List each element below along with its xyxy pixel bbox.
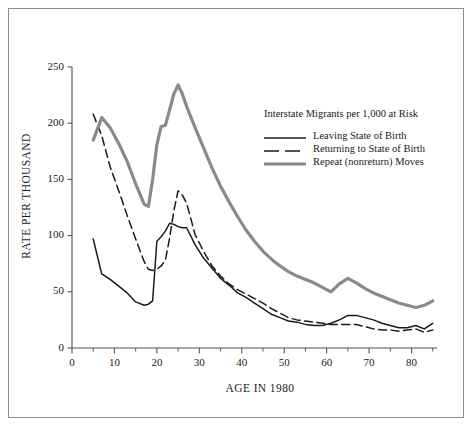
x-tick-label: 70 (354, 356, 384, 368)
legend-label-leaving: Leaving State of Birth (313, 130, 407, 141)
legend-item-returning: Returning to State of Birth (264, 142, 464, 155)
y-tick-label: 150 (28, 172, 64, 184)
y-tick-label: 50 (28, 284, 64, 296)
y-tick-label: 0 (28, 341, 64, 353)
x-tick-label: 10 (99, 356, 129, 368)
x-tick-label: 0 (57, 356, 87, 368)
legend-label-returning: Returning to State of Birth (313, 143, 425, 154)
series-line-1 (93, 223, 433, 329)
legend-title: Interstate Migrants per 1,000 at Risk (264, 108, 464, 119)
y-tick-label: 200 (28, 116, 64, 128)
x-tick-label: 80 (397, 356, 427, 368)
legend-item-leaving: Leaving State of Birth (264, 129, 464, 142)
legend-item-repeat: Repeat (nonreturn) Moves (264, 155, 464, 168)
x-axis-title: AGE IN 1980 (160, 382, 360, 394)
x-tick-label: 20 (142, 356, 172, 368)
legend-swatch-dashed-line (264, 143, 306, 155)
legend-swatch-gray-line (264, 156, 306, 168)
y-tick-label: 100 (28, 228, 64, 240)
x-tick-label: 40 (227, 356, 257, 368)
legend-label-repeat: Repeat (nonreturn) Moves (313, 156, 424, 167)
y-axis-title: RATE PER THOUSAND (20, 126, 32, 266)
chart-legend: Interstate Migrants per 1,000 at Risk Le… (264, 108, 464, 168)
y-tick-label: 250 (28, 60, 64, 72)
chart-page: RATE PER THOUSAND AGE IN 1980 0501001502… (0, 0, 475, 430)
x-tick-label: 30 (184, 356, 214, 368)
legend-swatch-solid-line (264, 130, 306, 142)
x-tick-label: 60 (312, 356, 342, 368)
x-tick-label: 50 (269, 356, 299, 368)
